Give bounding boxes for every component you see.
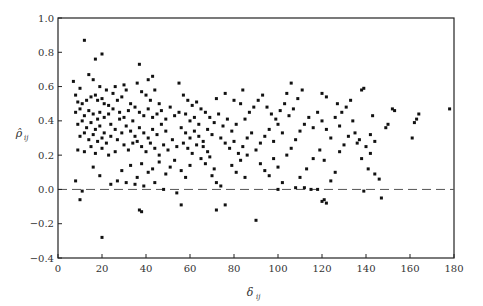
data-point bbox=[338, 125, 341, 128]
data-point bbox=[261, 94, 264, 97]
data-point bbox=[349, 99, 352, 102]
data-points bbox=[72, 39, 451, 239]
data-point bbox=[362, 190, 365, 193]
data-point bbox=[145, 94, 148, 97]
data-point bbox=[149, 142, 152, 145]
data-point bbox=[378, 178, 381, 181]
data-point bbox=[334, 116, 337, 119]
data-point bbox=[138, 111, 141, 114]
data-point bbox=[334, 171, 337, 174]
data-point bbox=[244, 118, 247, 121]
data-point bbox=[83, 131, 86, 134]
y-tick-label: 1.0 bbox=[38, 13, 54, 24]
data-point bbox=[116, 138, 119, 141]
data-point bbox=[164, 118, 167, 121]
data-point bbox=[96, 99, 99, 102]
data-point bbox=[303, 186, 306, 189]
data-point bbox=[191, 152, 194, 155]
data-point bbox=[112, 107, 115, 110]
x-tick-label: 120 bbox=[312, 263, 331, 274]
data-point bbox=[329, 179, 332, 182]
x-axis: 020406080100120140160180 bbox=[55, 254, 464, 274]
data-point bbox=[197, 135, 200, 138]
data-point bbox=[142, 185, 145, 188]
data-point bbox=[195, 101, 198, 104]
data-point bbox=[87, 73, 90, 76]
data-point bbox=[74, 179, 77, 182]
data-point bbox=[226, 118, 229, 121]
data-point bbox=[158, 161, 161, 164]
data-point bbox=[112, 92, 115, 95]
scatter-chart: 020406080100120140160180 −0.4−0.20.00.20… bbox=[0, 0, 483, 306]
data-point bbox=[310, 188, 313, 191]
data-point bbox=[90, 121, 93, 124]
data-point bbox=[272, 140, 275, 143]
data-point bbox=[136, 82, 139, 85]
y-tick-label: 0.0 bbox=[38, 184, 54, 195]
data-point bbox=[290, 147, 293, 150]
data-point bbox=[217, 113, 220, 116]
data-point bbox=[158, 102, 161, 105]
data-point bbox=[90, 95, 93, 98]
data-point bbox=[387, 123, 390, 126]
data-point bbox=[417, 113, 420, 116]
data-point bbox=[448, 107, 451, 110]
data-point bbox=[145, 150, 148, 153]
data-point bbox=[259, 162, 262, 165]
data-point bbox=[140, 145, 143, 148]
data-point bbox=[411, 137, 414, 140]
data-point bbox=[90, 145, 93, 148]
x-tick-label: 40 bbox=[140, 263, 153, 274]
data-point bbox=[343, 143, 346, 146]
data-point bbox=[136, 176, 139, 179]
data-point bbox=[138, 209, 141, 212]
data-point bbox=[288, 114, 291, 117]
data-point bbox=[263, 135, 266, 138]
data-point bbox=[323, 159, 326, 162]
y-tick-label: 0.8 bbox=[38, 47, 54, 58]
data-point bbox=[369, 133, 372, 136]
data-point bbox=[202, 140, 205, 143]
data-point bbox=[358, 138, 361, 141]
data-point bbox=[277, 166, 280, 169]
data-point bbox=[81, 102, 84, 105]
data-point bbox=[180, 126, 183, 129]
data-point bbox=[180, 169, 183, 172]
data-point bbox=[371, 114, 374, 117]
data-point bbox=[215, 181, 218, 184]
data-point bbox=[156, 133, 159, 136]
y-tick-label: 0.2 bbox=[38, 150, 54, 161]
data-point bbox=[224, 142, 227, 145]
data-point bbox=[321, 119, 324, 122]
data-point bbox=[140, 90, 143, 93]
data-point bbox=[79, 107, 82, 110]
data-point bbox=[413, 121, 416, 124]
data-point bbox=[338, 150, 341, 153]
data-point bbox=[215, 97, 218, 100]
data-point bbox=[186, 99, 189, 102]
data-point bbox=[153, 147, 156, 150]
data-point bbox=[175, 191, 178, 194]
data-point bbox=[160, 109, 163, 112]
data-point bbox=[160, 123, 163, 126]
data-point bbox=[235, 123, 238, 126]
data-point bbox=[87, 138, 90, 141]
data-point bbox=[281, 131, 284, 134]
data-point bbox=[318, 149, 321, 152]
data-point bbox=[94, 152, 97, 155]
data-point bbox=[123, 143, 126, 146]
data-point bbox=[285, 154, 288, 157]
data-point bbox=[182, 142, 185, 145]
data-point bbox=[373, 140, 376, 143]
data-point bbox=[323, 198, 326, 201]
data-point bbox=[109, 135, 112, 138]
data-point bbox=[98, 85, 101, 88]
data-point bbox=[186, 147, 189, 150]
data-point bbox=[312, 157, 315, 160]
data-point bbox=[136, 140, 139, 143]
data-point bbox=[237, 152, 240, 155]
data-point bbox=[365, 145, 368, 148]
data-point bbox=[131, 119, 134, 122]
data-point bbox=[272, 157, 275, 160]
data-point bbox=[230, 130, 233, 133]
